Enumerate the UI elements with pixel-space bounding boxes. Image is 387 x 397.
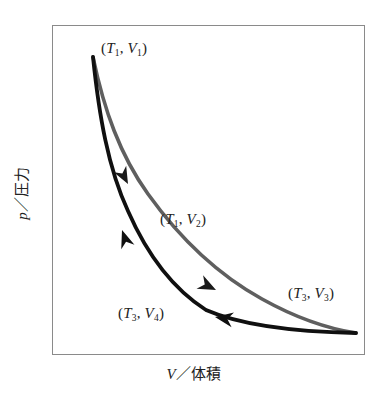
paren-close: ) <box>329 285 334 301</box>
y-axis-text: 圧力 <box>14 167 30 197</box>
symbol-V: V <box>315 285 324 301</box>
subscript-2: 4 <box>154 313 159 323</box>
separator-comma: , <box>120 40 128 56</box>
arrow-expansion-lower-icon <box>197 275 220 296</box>
symbol-T: T <box>293 285 302 301</box>
subscript-2: 3 <box>324 293 329 303</box>
state-label-t1-v1: (T1, V1) <box>101 40 147 57</box>
paren-close: ) <box>159 305 164 321</box>
state-label-t1-v2: (T1, V2) <box>160 211 206 228</box>
isotherm-curves <box>0 0 387 397</box>
separator-comma: , <box>307 285 315 301</box>
state-label-t3-v3: (T3, V3) <box>288 285 334 302</box>
x-axis-symbol: V <box>166 366 175 382</box>
x-axis-text: 体積 <box>191 366 221 382</box>
y-axis-separator: ／ <box>14 197 30 212</box>
separator-comma: , <box>137 305 145 321</box>
subscript-2: 2 <box>196 219 201 229</box>
subscript-1: 1 <box>115 48 120 58</box>
y-axis-symbol: p <box>14 212 30 220</box>
symbol-T: T <box>165 211 174 227</box>
symbol-T: T <box>123 305 132 321</box>
separator-comma: , <box>179 211 187 227</box>
subscript-2: 1 <box>137 48 142 58</box>
paren-close: ) <box>142 40 147 56</box>
subscript-1: 3 <box>302 293 307 303</box>
symbol-T: T <box>106 40 115 56</box>
symbol-V: V <box>128 40 137 56</box>
symbol-V: V <box>145 305 154 321</box>
state-label-t3-v4: (T3, V4) <box>118 305 164 322</box>
symbol-V: V <box>187 211 196 227</box>
subscript-1: 3 <box>132 313 137 323</box>
paren-close: ) <box>201 211 206 227</box>
x-axis-label: V／体積 <box>0 362 387 383</box>
subscript-1: 1 <box>174 219 179 229</box>
arrow-compression-upper-icon <box>115 228 134 250</box>
x-axis-separator: ／ <box>176 366 191 382</box>
y-axis-label: p／圧力 <box>10 144 31 244</box>
pv-diagram-figure: (T1, V1) (T1, V2) (T3, V3) (T3, V4) V／体積… <box>0 0 387 397</box>
